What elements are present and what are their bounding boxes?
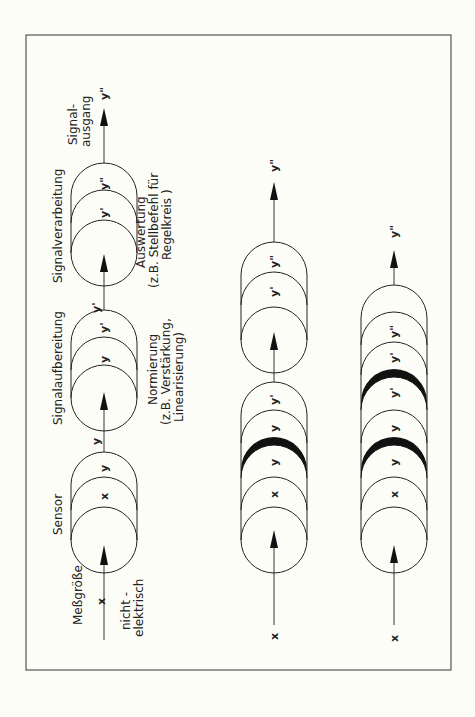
disk-label: y bbox=[388, 459, 401, 466]
disk-label: y' bbox=[268, 286, 281, 297]
disk-label: y bbox=[98, 356, 111, 363]
black-separator bbox=[241, 437, 307, 478]
signal-label: y' bbox=[90, 302, 103, 313]
row1-input-note-2: elektrisch bbox=[132, 579, 146, 637]
signal-label: y bbox=[90, 438, 103, 445]
disk-label: y bbox=[388, 425, 401, 432]
row3-input-symbol: x bbox=[388, 635, 401, 642]
output-label-2: ausgang bbox=[79, 96, 93, 147]
stage3-note-3: Regelkreis ) bbox=[160, 189, 174, 260]
row3-output-symbol: y" bbox=[388, 225, 401, 238]
disk-label: y" bbox=[268, 255, 281, 268]
row-3 bbox=[361, 250, 427, 625]
stage2-note-2: (z.B. Verstärkung, bbox=[159, 318, 173, 425]
stage3-note-1: Auswertung bbox=[134, 196, 148, 268]
disk-label: y' bbox=[388, 352, 401, 363]
arrow-head-icon bbox=[100, 545, 108, 565]
stage-title-signalverarbeitung: Signalverarbeitung bbox=[51, 169, 65, 283]
row1-output-symbol: y" bbox=[98, 87, 111, 100]
black-separator bbox=[361, 437, 427, 478]
disk-label: y' bbox=[388, 387, 401, 398]
disk-label: y bbox=[98, 465, 111, 472]
stage-title-signalaufbereitung: Signalaufbereitung bbox=[51, 311, 65, 425]
row1-input-note-1: nicht - bbox=[119, 592, 133, 630]
row2-input-symbol: x bbox=[268, 633, 281, 640]
disk-label: y' bbox=[98, 207, 111, 218]
disk-label: x bbox=[268, 491, 281, 498]
disk-label: x bbox=[388, 491, 401, 498]
stage2-note-3: Linearisierung) bbox=[172, 332, 186, 422]
disk-label: y" bbox=[388, 325, 401, 338]
disk-label: y bbox=[268, 425, 281, 432]
disk-label: y' bbox=[98, 322, 111, 333]
stage3-note-2: (z.B. Stellbefehl für bbox=[147, 173, 161, 288]
row1-input-label: Meßgröße bbox=[71, 565, 85, 625]
stage2-note-1: Normierung bbox=[146, 334, 160, 405]
output-label-1: Signal- bbox=[66, 104, 80, 145]
disk-label: y bbox=[268, 459, 281, 466]
disk-label: x bbox=[98, 493, 111, 500]
row2-output-symbol: y" bbox=[268, 159, 281, 172]
row1-input-symbol: x bbox=[95, 598, 108, 605]
disk-label: y" bbox=[98, 177, 111, 190]
disk-label: y' bbox=[268, 394, 281, 405]
signal-chain-diagram: x Meßgröße nicht - elektrisch Sensor x y… bbox=[0, 0, 475, 717]
stage-title-sensor: Sensor bbox=[51, 494, 65, 535]
